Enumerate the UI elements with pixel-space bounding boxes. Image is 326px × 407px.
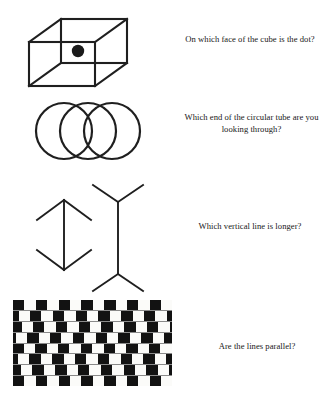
right-fin-top-left xyxy=(93,185,118,202)
cafe-wall-cell xyxy=(75,354,86,365)
cafe-wall-cell xyxy=(112,365,123,376)
left-fin-bottom-right xyxy=(64,250,91,270)
cafe-wall-cell xyxy=(13,365,21,376)
prompt-parallel: Are the lines parallel? xyxy=(192,340,322,352)
cafe-wall-cell xyxy=(35,343,46,354)
cafe-wall-cell xyxy=(121,311,132,322)
cafe-wall-cell xyxy=(84,332,95,343)
cafe-wall-cell xyxy=(67,365,78,376)
muller-lyer-figure xyxy=(20,184,150,292)
right-fin-top-right xyxy=(118,185,143,202)
cafe-wall-mortar-line xyxy=(13,321,172,322)
necker-cube-figure xyxy=(26,16,130,90)
circular-tube-figure xyxy=(34,100,142,162)
cafe-wall-cell xyxy=(116,375,127,386)
cafe-wall-row-cells xyxy=(13,354,172,365)
prompt-tube: Which end of the circular tube are you l… xyxy=(180,111,323,136)
cafe-wall-cell xyxy=(24,343,35,354)
cafe-wall-cell xyxy=(19,311,30,322)
right-fin-bottom-right xyxy=(118,274,143,291)
left-fin-top-left xyxy=(37,200,64,220)
cafe-wall-cell xyxy=(81,300,92,311)
left-fin-bottom-left xyxy=(37,250,64,270)
cube-dot xyxy=(72,45,84,57)
cafe-wall-cell xyxy=(170,322,172,333)
cafe-wall-cell xyxy=(127,300,138,311)
left-fin-top-right xyxy=(64,200,91,220)
cafe-wall-cell xyxy=(98,311,109,322)
cafe-wall-cell xyxy=(41,311,52,322)
cafe-wall-cell xyxy=(53,311,64,322)
cafe-wall-cell xyxy=(47,300,58,311)
cafe-wall-cell xyxy=(64,354,75,365)
cafe-wall-cell xyxy=(59,375,70,386)
cafe-wall-cell xyxy=(59,300,70,311)
cafe-wall-row-cells xyxy=(13,300,172,311)
cafe-wall-cell xyxy=(164,332,172,343)
cafe-wall-cell xyxy=(70,300,81,311)
cafe-wall-cell xyxy=(13,343,24,354)
cafe-wall-cell xyxy=(169,365,172,376)
cafe-wall-cell xyxy=(136,322,147,333)
puzzle-row-cube: On which face of the cube is the dot? xyxy=(0,0,326,96)
cafe-wall-row-cells xyxy=(13,311,172,322)
cafe-wall-grid xyxy=(13,300,172,386)
cafe-wall-cell xyxy=(155,354,166,365)
cafe-wall-cell xyxy=(93,300,104,311)
cafe-wall-cell xyxy=(144,311,155,322)
cafe-wall-cell xyxy=(29,354,40,365)
cafe-wall-mortar-line xyxy=(13,343,172,344)
cafe-wall-cell xyxy=(92,343,103,354)
cafe-wall-cell xyxy=(56,322,67,333)
cafe-wall-cell xyxy=(107,332,118,343)
cafe-wall-cell xyxy=(61,332,72,343)
cafe-wall-cell xyxy=(124,365,135,376)
cafe-wall-row xyxy=(13,332,172,343)
cafe-wall-cell xyxy=(73,332,84,343)
cafe-wall-cell xyxy=(13,375,24,386)
cafe-wall-cell xyxy=(126,343,137,354)
worksheet-page: On which face of the cube is the dot? Wh… xyxy=(0,0,326,407)
cafe-wall-cell xyxy=(13,322,22,333)
cafe-wall-cell xyxy=(109,354,120,365)
cafe-wall-cell xyxy=(33,322,44,333)
cafe-wall-cell xyxy=(130,332,141,343)
cafe-wall-cell xyxy=(138,375,149,386)
cafe-wall-cell xyxy=(135,365,146,376)
cafe-wall-mortar-line xyxy=(13,310,172,311)
cafe-wall-cell xyxy=(44,322,55,333)
cafe-wall-row xyxy=(13,375,172,386)
cafe-wall-cell xyxy=(44,365,55,376)
cafe-wall-cell xyxy=(87,311,98,322)
cafe-wall-row-cells xyxy=(13,343,172,354)
cafe-wall-cell xyxy=(27,332,38,343)
cafe-wall-cell xyxy=(158,322,169,333)
cafe-wall-figure xyxy=(13,300,172,386)
cafe-wall-cell xyxy=(161,375,172,386)
prompt-cube: On which face of the cube is the dot? xyxy=(180,33,320,45)
cafe-wall-row xyxy=(13,322,172,333)
cafe-wall-cell xyxy=(18,354,29,365)
cafe-wall-cell xyxy=(81,343,92,354)
cafe-wall-cell xyxy=(89,365,100,376)
puzzle-row-lines: Which vertical line is longer? xyxy=(0,182,326,292)
cafe-wall-cell xyxy=(138,300,149,311)
cafe-wall-row-cells xyxy=(13,365,172,376)
cafe-wall-row-cells xyxy=(13,375,172,386)
cafe-wall-cell xyxy=(30,311,41,322)
cafe-wall-cell xyxy=(47,375,58,386)
cafe-wall-cell xyxy=(78,365,89,376)
cafe-wall-cell xyxy=(24,300,35,311)
cafe-wall-cell xyxy=(155,311,166,322)
cafe-wall-cell xyxy=(16,332,27,343)
cafe-wall-cell xyxy=(22,322,33,333)
cafe-wall-cell xyxy=(86,354,97,365)
cafe-wall-cell xyxy=(41,354,52,365)
cafe-wall-cell xyxy=(36,375,47,386)
cafe-wall-cell xyxy=(104,343,115,354)
cafe-wall-mortar-line xyxy=(13,364,172,365)
cafe-wall-cell xyxy=(127,375,138,386)
cube-edge-bottom-left xyxy=(29,63,61,86)
cafe-wall-cell xyxy=(160,343,171,354)
prompt-lines: Which vertical line is longer? xyxy=(180,220,320,232)
